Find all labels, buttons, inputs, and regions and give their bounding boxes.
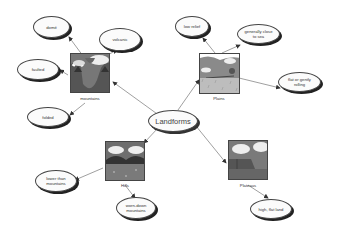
detail-label: generally close to sea [245, 29, 273, 39]
hills-illustration-icon [106, 142, 145, 181]
plateau-illustration-icon [229, 141, 268, 180]
detail-node-worn-down-mountains[interactable]: worn-down mountains [116, 197, 156, 219]
plains-caption: Plains [194, 96, 244, 101]
hills-caption: Hills [100, 183, 150, 188]
detail-node-folded[interactable]: folded [27, 107, 69, 127]
center-label: Landforms [155, 119, 190, 124]
hills-image [105, 141, 145, 181]
plains-illustration-icon [200, 54, 240, 94]
detail-label: faulted [32, 67, 45, 72]
plateaus-image [228, 140, 268, 180]
detail-node-low-relief[interactable]: low relief [175, 16, 209, 37]
detail-node-flat-or-gently-rolling[interactable]: flat or gently rolling [278, 72, 321, 92]
detail-label: lower than mountains [43, 176, 69, 186]
detail-node-lower-than-mountains[interactable]: lower than mountains [35, 170, 77, 192]
detail-node-dome[interactable]: domé [33, 16, 70, 38]
detail-node-volcanic[interactable]: volcanic [99, 28, 141, 51]
detail-label: worn-down mountains [122, 203, 150, 213]
detail-label: high, flat land [259, 207, 284, 212]
mountain-illustration-icon [71, 54, 110, 93]
plains-image [199, 53, 240, 94]
center-node-landforms[interactable]: Landforms [148, 110, 198, 132]
detail-node-generally-close-to-sea[interactable]: generally close to sea [237, 24, 280, 44]
plateaus-caption: Plateaus [223, 183, 273, 188]
mountains-image [70, 53, 110, 93]
detail-label: folded [42, 115, 53, 120]
detail-node-faulted[interactable]: faulted [17, 59, 59, 80]
mountains-caption: mountains [65, 96, 115, 101]
detail-label: flat or gently rolling [285, 77, 315, 87]
detail-node-high-flat-land[interactable]: high, flat land [250, 199, 292, 219]
detail-label: low relief [184, 24, 201, 29]
detail-label: volcanic [112, 37, 127, 42]
detail-label: domé [46, 25, 56, 30]
